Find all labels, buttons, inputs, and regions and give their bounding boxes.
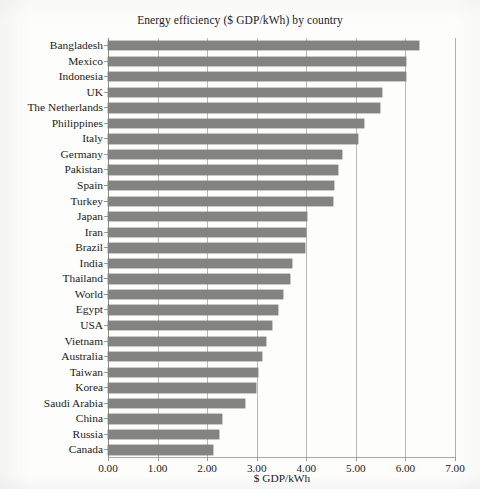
bar <box>108 72 406 81</box>
bar-chart-figure: Energy efficiency ($ GDP/kWh) by country… <box>0 0 480 489</box>
bar <box>108 103 380 112</box>
category-label: Korea <box>0 379 103 395</box>
x-axis-tick <box>306 457 307 461</box>
x-axis-tick <box>405 457 406 461</box>
category-label: Indonesia <box>0 68 103 84</box>
category-label: Saudi Arabia <box>0 395 103 411</box>
category-label: Canada <box>0 441 103 457</box>
bar <box>108 243 305 252</box>
category-label: Italy <box>0 130 103 146</box>
bar <box>108 399 245 408</box>
category-label: Egypt <box>0 301 103 317</box>
category-label: Japan <box>0 208 103 224</box>
bar <box>108 228 306 237</box>
bar <box>108 337 266 346</box>
bar <box>108 119 364 128</box>
category-label: Taiwan <box>0 364 103 380</box>
category-label: Iran <box>0 224 103 240</box>
bar <box>108 57 406 66</box>
bar <box>108 368 258 377</box>
category-label: China <box>0 410 103 426</box>
x-axis-tick <box>257 457 258 461</box>
bar-rows: BangladeshMexicoIndonesiaUKThe Netherlan… <box>0 38 480 458</box>
bar <box>108 150 342 159</box>
category-label: Australia <box>0 348 103 364</box>
bar <box>108 88 382 97</box>
category-label: Russia <box>0 426 103 442</box>
chart-title: Energy efficiency ($ GDP/kWh) by country <box>0 14 480 26</box>
bar <box>108 165 338 174</box>
bar <box>108 290 283 299</box>
bar <box>108 352 262 361</box>
bar <box>108 414 222 423</box>
category-label: UK <box>0 84 103 100</box>
category-label: Vietnam <box>0 333 103 349</box>
category-label: Thailand <box>0 270 103 286</box>
x-axis-title: $ GDP/kWh <box>108 472 456 484</box>
x-axis-tick <box>158 457 159 461</box>
x-axis-tick <box>455 457 456 461</box>
bar <box>108 445 213 454</box>
bar <box>108 181 334 190</box>
x-axis-tick <box>108 457 109 461</box>
category-label: Germany <box>0 146 103 162</box>
bar <box>108 197 333 206</box>
bar <box>108 305 278 314</box>
category-label: Turkey <box>0 193 103 209</box>
bar <box>108 321 272 330</box>
category-label: World <box>0 286 103 302</box>
bar <box>108 134 358 143</box>
category-label: Brazil <box>0 239 103 255</box>
x-axis-tick <box>356 457 357 461</box>
category-label: Spain <box>0 177 103 193</box>
category-label: India <box>0 255 103 271</box>
bar <box>108 430 219 439</box>
x-axis-tick <box>207 457 208 461</box>
category-label: Philippines <box>0 115 103 131</box>
category-label: Bangladesh <box>0 37 103 53</box>
category-label: The Netherlands <box>0 99 103 115</box>
bar <box>108 259 292 268</box>
bar <box>108 274 290 283</box>
bar <box>108 383 256 392</box>
bar <box>108 41 419 50</box>
category-label: Mexico <box>0 53 103 69</box>
category-label: USA <box>0 317 103 333</box>
bar <box>108 212 307 221</box>
category-label: Pakistan <box>0 161 103 177</box>
